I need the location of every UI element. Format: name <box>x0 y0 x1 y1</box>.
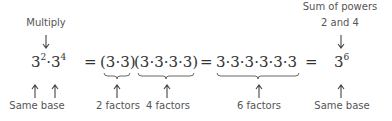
base: 3 <box>31 53 41 71</box>
up-arrow-icon <box>163 84 171 98</box>
up-arrow-icon <box>31 84 39 98</box>
equals-sign: = <box>84 53 97 71</box>
group-four-factors: (3·3·3·3) <box>134 53 198 71</box>
up-arrow-icon <box>113 84 121 98</box>
multiply-label: Multiply <box>26 17 66 28</box>
same-base-label: Same base <box>314 100 369 111</box>
equals-sign: = <box>200 53 213 71</box>
up-arrow-icon <box>337 84 345 98</box>
exponent: 4 <box>61 52 67 62</box>
group-two-factors: (3·3) <box>100 53 136 71</box>
expanded-product: 3·3·3·3·3·3 <box>216 53 297 71</box>
exponent: 2 <box>41 52 47 62</box>
sum-of-powers-values-label: 2 and 4 <box>321 17 359 28</box>
same-base-label: Same base <box>9 100 64 111</box>
two-factors-label: 2 factors <box>96 100 140 111</box>
underbrace-six-factors <box>216 72 300 80</box>
base: 3 <box>51 53 61 71</box>
down-arrow-icon <box>337 35 345 49</box>
exponent: 6 <box>344 52 350 62</box>
base: 3 <box>334 53 344 71</box>
four-factors-label: 4 factors <box>146 100 190 111</box>
underbrace-two-factors <box>103 72 131 80</box>
up-arrow-icon <box>51 84 59 98</box>
result-power: 36 <box>334 53 349 71</box>
down-arrow-icon <box>42 35 50 49</box>
six-factors-label: 6 factors <box>237 100 281 111</box>
lhs-product: 32·34 <box>31 53 66 71</box>
underbrace-four-factors <box>137 72 195 80</box>
equals-sign: = <box>305 53 318 71</box>
up-arrow-icon <box>255 84 263 98</box>
sum-of-powers-label: Sum of powers <box>303 1 378 12</box>
